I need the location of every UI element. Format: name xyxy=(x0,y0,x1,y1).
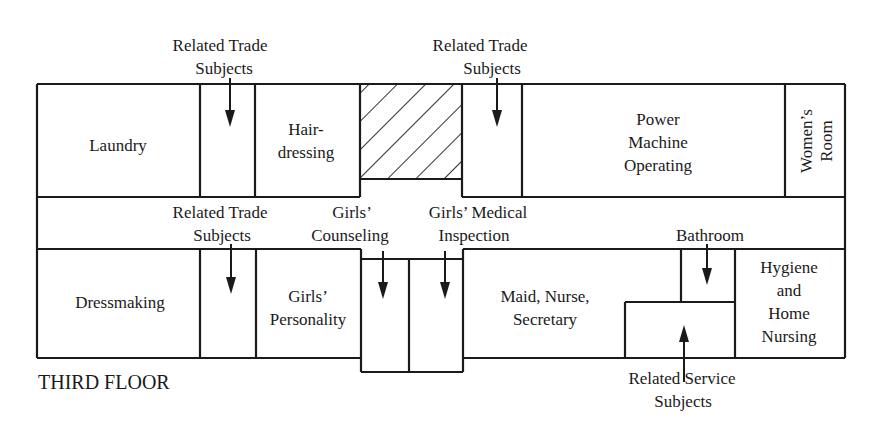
callout-related-trade-top-mid-2: Subjects xyxy=(463,59,521,78)
floor-label: THIRD FLOOR xyxy=(38,371,170,393)
room-girls-personality-2: Personality xyxy=(270,310,347,329)
room-power-machine-2: Machine xyxy=(628,133,687,152)
callout-related-trade-top-left-1: Related Trade xyxy=(173,36,268,55)
callout-related-trade-lower-1: Related Trade xyxy=(173,203,268,222)
room-hygiene-4: Nursing xyxy=(762,327,817,346)
arrow-down-icon xyxy=(225,78,235,127)
room-maid-nurse-1: Maid, Nurse, xyxy=(500,287,589,306)
room-hygiene-2: and xyxy=(777,281,802,300)
callout-related-trade-top-left-2: Subjects xyxy=(195,59,253,78)
callout-bathroom: Bathroom xyxy=(676,226,744,245)
room-hairdressing-2: dressing xyxy=(278,143,335,162)
callout-girls-medical-1: Girls’ Medical xyxy=(429,203,528,222)
callout-related-trade-lower-2: Subjects xyxy=(193,226,251,245)
room-laundry: Laundry xyxy=(89,136,147,155)
room-womens-room-2: Room xyxy=(817,120,836,162)
room-girls-personality-1: Girls’ xyxy=(288,287,328,306)
room-womens-room: Women’s Room xyxy=(797,109,836,173)
hatched-stairwell xyxy=(361,85,461,179)
callout-related-service-1: Related Service xyxy=(628,369,735,388)
room-womens-room-1: Women’s xyxy=(797,109,816,173)
callout-related-trade-top-mid-1: Related Trade xyxy=(433,36,528,55)
arrow-down-icon xyxy=(702,244,712,285)
callout-girls-counseling-1: Girls’ xyxy=(332,203,372,222)
callout-related-service-2: Subjects xyxy=(654,392,712,411)
room-hygiene-1: Hygiene xyxy=(760,258,818,277)
arrow-down-icon xyxy=(226,244,236,294)
arrow-down-icon xyxy=(492,78,502,127)
callout-girls-counseling-2: Counseling xyxy=(311,226,389,245)
room-dressmaking: Dressmaking xyxy=(75,293,165,312)
room-power-machine-3: Operating xyxy=(624,156,692,175)
room-hairdressing-1: Hair- xyxy=(288,120,324,139)
room-power-machine-1: Power xyxy=(636,110,680,129)
room-hygiene-3: Home xyxy=(768,304,810,323)
callout-girls-medical-2: Inspection xyxy=(439,226,510,245)
floor-plan: Laundry Hair- dressing Power Machine Ope… xyxy=(0,0,884,428)
room-maid-nurse-2: Secretary xyxy=(513,310,578,329)
